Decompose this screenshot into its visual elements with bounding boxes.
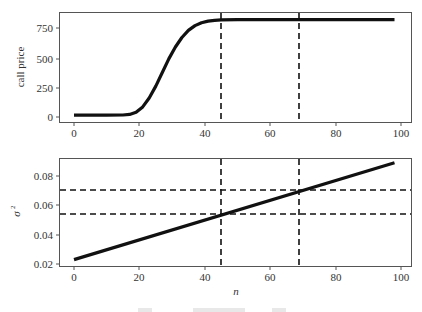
top-y-ticks: 0 250 500 750 <box>37 22 60 123</box>
top-ytick-label: 750 <box>37 22 54 34</box>
top-xtick-label: 40 <box>200 127 212 139</box>
top-xtick-label: 80 <box>331 127 343 139</box>
figure-caption-cutoff <box>138 308 286 312</box>
top-ylabel: call price <box>14 47 26 88</box>
call-price-curve <box>74 20 395 116</box>
bottom-xtick-label: 0 <box>71 271 77 283</box>
top-ytick-label: 0 <box>48 111 54 123</box>
bottom-y-ticks: 0.02 0.04 0.06 0.08 <box>34 170 59 270</box>
bottom-xlabel: n <box>233 285 239 297</box>
top-xtick-label: 0 <box>71 127 77 139</box>
bottom-ylabel-sup: 2 <box>9 205 17 209</box>
top-ytick-label: 500 <box>37 53 54 65</box>
bottom-xtick-label: 20 <box>134 271 146 283</box>
bottom-xtick-label: 100 <box>393 271 410 283</box>
bottom-ylabel: σ 2 <box>9 205 22 217</box>
top-plot: 0 250 500 750 0 20 40 60 80 100 call pri… <box>14 13 412 140</box>
bottom-xtick-label: 40 <box>200 271 212 283</box>
sigma-squared-line <box>74 163 395 260</box>
bottom-ytick-label: 0.04 <box>34 229 54 241</box>
top-xtick-label: 100 <box>393 127 410 139</box>
top-xtick-label: 20 <box>134 127 146 139</box>
figure: 0 250 500 750 0 20 40 60 80 100 call pri… <box>0 0 422 312</box>
bottom-ytick-label: 0.06 <box>34 199 54 211</box>
bottom-xtick-label: 60 <box>265 271 277 283</box>
top-x-ticks: 0 20 40 60 80 100 <box>71 122 410 139</box>
bottom-ytick-label: 0.02 <box>34 258 53 270</box>
bottom-xtick-label: 80 <box>331 271 343 283</box>
top-xtick-label: 60 <box>265 127 277 139</box>
top-ytick-label: 250 <box>37 82 54 94</box>
bottom-plot: 0.02 0.04 0.06 0.08 0 20 40 60 80 100 σ … <box>9 159 412 298</box>
bottom-ytick-label: 0.08 <box>34 170 54 182</box>
bottom-x-ticks: 0 20 40 60 80 100 <box>71 266 410 283</box>
top-plot-frame <box>60 13 412 123</box>
bottom-ylabel-base: σ <box>10 211 22 217</box>
